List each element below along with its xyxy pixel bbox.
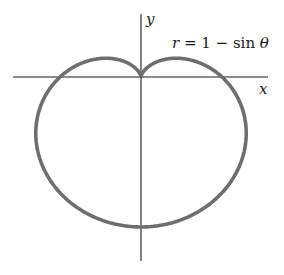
equation-theta: θ: [260, 34, 269, 52]
equation-mid: = 1 − sin: [179, 34, 260, 52]
equation-label: r = 1 − sin θ: [172, 34, 269, 52]
y-axis-label: y: [145, 10, 155, 28]
x-axis-label: x: [259, 80, 268, 98]
cardioid-diagram: y x r = 1 − sin θ: [0, 0, 284, 275]
